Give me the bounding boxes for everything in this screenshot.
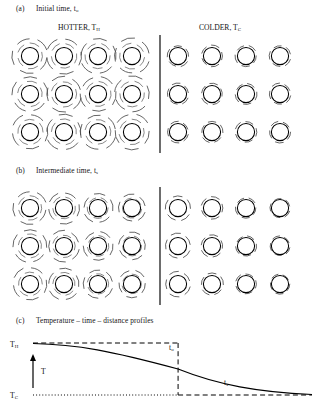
panel-b-lattice <box>0 186 322 304</box>
panel-b-title: Intermediate time, t <box>36 166 96 175</box>
cold-region-label: COLDER, T <box>199 23 238 32</box>
panel-a-title: Initial time, t <box>36 4 76 13</box>
panel-a-tag: (a) <box>16 4 36 13</box>
panel-c-caption: (c)Temperature – time – distance profile… <box>16 316 154 325</box>
panel-a-lattice <box>0 34 322 154</box>
hot-region-sub: H <box>96 27 100 32</box>
panel-c-title: Temperature – time – distance profiles <box>36 316 154 325</box>
cold-region-sub: C <box>238 27 241 32</box>
hot-region-label: HOTTER, T <box>58 23 96 32</box>
figure-heat-conduction: (a)Initial time, to HOTTER, TH COLDER, T… <box>0 0 322 409</box>
panel-b-caption: (b)Intermediate time, ts <box>16 166 98 175</box>
panel-a-title-sub: o <box>76 8 79 13</box>
panel-b-title-sub: s <box>96 170 98 175</box>
cold-region-header: COLDER, TC <box>199 23 241 32</box>
panel-c-tag: (c) <box>16 316 36 325</box>
panel-c-graph <box>0 335 322 409</box>
hot-region-header: HOTTER, TH <box>58 23 100 32</box>
panel-a-caption: (a)Initial time, to <box>16 4 78 13</box>
panel-b-tag: (b) <box>16 166 36 175</box>
